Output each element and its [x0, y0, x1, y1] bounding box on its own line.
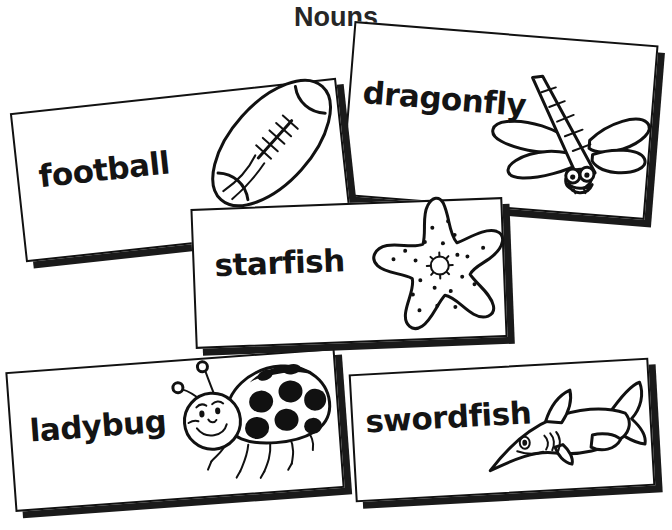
flashcard-starfish[interactable]: starfish — [190, 197, 507, 349]
flashcard-ladybug[interactable]: ladybug — [5, 348, 344, 512]
swordfish-illustration — [479, 367, 660, 487]
starfish-illustration — [355, 185, 521, 351]
ladybug-illustration — [159, 340, 344, 492]
flashcard-swordfish[interactable]: swordfish — [349, 358, 656, 503]
card-word-starfish: starfish — [214, 242, 345, 283]
noun-flashcards-sheet: Nouns dragonfly — [0, 0, 672, 530]
page-title: Nouns — [0, 2, 672, 33]
